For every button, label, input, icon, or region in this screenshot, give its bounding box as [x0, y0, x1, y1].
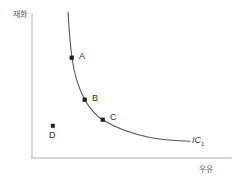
point-label-d: D — [49, 131, 56, 140]
point-label-b: B — [92, 94, 98, 103]
x-axis-label: 우유 — [199, 166, 213, 174]
indifference-curve-figure: 재화 우유 A B C D IC1 — [0, 0, 238, 187]
indifference-curve-path — [68, 12, 190, 141]
data-point-a — [70, 56, 74, 60]
curve-label-subscript: 1 — [201, 141, 204, 147]
data-point-b — [83, 98, 87, 102]
point-label-c: C — [110, 113, 117, 122]
plot-canvas — [0, 0, 238, 187]
data-point-d — [51, 124, 55, 128]
curve-label-text: IC — [192, 135, 201, 145]
data-point-c — [101, 118, 105, 122]
point-label-a: A — [79, 52, 85, 61]
curve-label-ic1: IC1 — [192, 136, 204, 147]
y-axis-label: 재화 — [13, 11, 27, 19]
